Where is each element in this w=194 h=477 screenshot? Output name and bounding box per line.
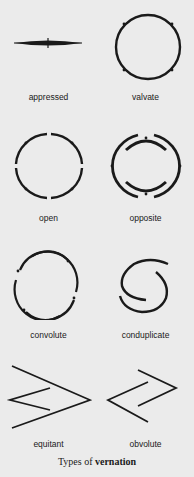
- convolute-diagram: [12, 250, 80, 320]
- label-valvate: valvate: [97, 92, 194, 102]
- label-opposite: opposite: [97, 213, 194, 223]
- opposite-diagram: [108, 130, 184, 202]
- label-appressed: appressed: [0, 92, 97, 102]
- conduplicate-diagram: [116, 254, 176, 316]
- figure-caption: Types of vernation: [0, 456, 194, 467]
- obvolute-diagram: [104, 366, 180, 424]
- label-open: open: [0, 213, 97, 223]
- caption-emphasis: vernation: [95, 456, 136, 467]
- label-convolute: convolute: [0, 330, 97, 340]
- label-conduplicate: conduplicate: [97, 330, 194, 340]
- label-equitant: equitant: [0, 439, 97, 449]
- valvate-diagram: [112, 12, 184, 82]
- caption-prefix: Types of: [58, 456, 95, 467]
- open-diagram: [12, 130, 86, 202]
- equitant-diagram: [6, 362, 92, 430]
- appressed-diagram: [10, 30, 86, 55]
- label-obvolute: obvolute: [97, 439, 194, 449]
